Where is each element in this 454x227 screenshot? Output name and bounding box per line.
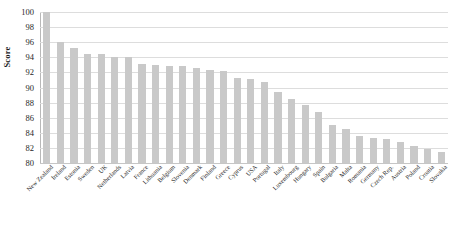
y-axis-tick-label: 100 (21, 8, 34, 17)
y-axis-tick-label: 80 (26, 159, 35, 168)
bar (424, 149, 431, 163)
bar (166, 66, 173, 163)
bar (138, 64, 145, 163)
bar (125, 57, 132, 163)
bar (342, 129, 349, 163)
bar (383, 139, 390, 163)
bar (193, 68, 200, 163)
bar (302, 105, 309, 163)
y-axis-tick-label: 82 (26, 144, 35, 153)
bar (152, 65, 159, 163)
bar (410, 146, 417, 163)
bar (111, 57, 118, 163)
y-axis-tick-label: 88 (26, 98, 35, 107)
bar (247, 79, 254, 163)
y-axis-tick-label: 86 (26, 113, 35, 122)
bar (397, 142, 404, 163)
bar (329, 125, 336, 164)
bar (206, 70, 213, 163)
bar (370, 138, 377, 163)
y-axis-tick-label: 96 (26, 38, 35, 47)
bar (274, 92, 281, 163)
y-axis-tick-label: 98 (26, 23, 35, 32)
bar (356, 136, 363, 163)
bar (43, 12, 50, 163)
bar (70, 48, 77, 164)
bars-layer (40, 12, 448, 163)
bar (98, 54, 105, 163)
bar (261, 82, 268, 163)
bar (288, 99, 295, 163)
bar (84, 54, 91, 163)
bar (220, 71, 227, 163)
y-axis-tick-label: 94 (26, 53, 35, 62)
plot-area (40, 12, 448, 163)
y-axis-tick-labels: 80828486889092949698100 (0, 12, 37, 163)
y-axis-tick-label: 92 (26, 68, 35, 77)
bar-chart: Score 80828486889092949698100 New Zealan… (0, 0, 454, 227)
bar (438, 152, 445, 163)
y-axis-tick-label: 84 (26, 129, 35, 138)
x-axis-category-labels: New ZealandIrelandEstoniaSwedenUKNetherl… (40, 164, 448, 227)
y-axis-tick-label: 90 (26, 83, 35, 92)
bar (57, 42, 64, 163)
x-axis-category-label: New Zealand (26, 164, 55, 193)
bar (315, 112, 322, 163)
bar (179, 66, 186, 163)
bar (234, 78, 241, 163)
